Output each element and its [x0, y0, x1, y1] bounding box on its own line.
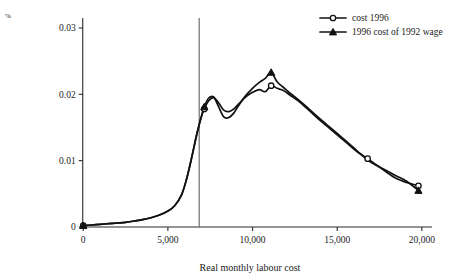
x-axis-title: Real monthly labour cost: [200, 262, 301, 273]
series-line-1: [83, 72, 418, 225]
y-tick-label: 0: [71, 222, 76, 232]
y-axis-unit-label: %: [5, 12, 11, 20]
x-tick-group: [83, 227, 422, 231]
marker-open-circle: [330, 15, 335, 20]
marker-open-circle: [268, 83, 273, 88]
line-chart: 00.010.020.03 % 05,00010,00015,00020,000…: [0, 0, 458, 276]
x-tick-label: 10,000: [239, 235, 265, 245]
legend-label: cost 1996: [352, 13, 389, 23]
y-axis: 00.010.020.03 %: [5, 12, 83, 232]
chart-figure: 00.010.020.03 % 05,00010,00015,00020,000…: [0, 0, 458, 276]
y-tick-group: [79, 28, 83, 227]
legend-entry-0: cost 1996: [320, 13, 389, 23]
y-tick-label: 0.03: [59, 23, 76, 33]
y-tick-label: 0.02: [59, 90, 76, 100]
x-tick-label: 5,000: [157, 235, 179, 245]
y-tick-label: 0.01: [59, 156, 76, 166]
legend-entry-1: 1996 cost of 1992 wage: [320, 27, 443, 37]
x-tick-label: 0: [81, 235, 86, 245]
marker-filled-triangle: [268, 69, 275, 75]
x-tick-label-group: 05,00010,00015,00020,000: [81, 235, 435, 245]
x-tick-label: 20,000: [409, 235, 435, 245]
y-tick-label-group: 00.010.020.03: [59, 23, 76, 232]
marker-open-circle: [365, 156, 370, 161]
x-tick-label: 15,000: [324, 235, 350, 245]
x-axis: 05,00010,00015,00020,000 Real monthly la…: [81, 227, 435, 273]
legend-label: 1996 cost of 1992 wage: [352, 27, 443, 37]
series-layer: [83, 72, 418, 225]
chart-legend: cost 19961996 cost of 1992 wage: [320, 13, 443, 37]
